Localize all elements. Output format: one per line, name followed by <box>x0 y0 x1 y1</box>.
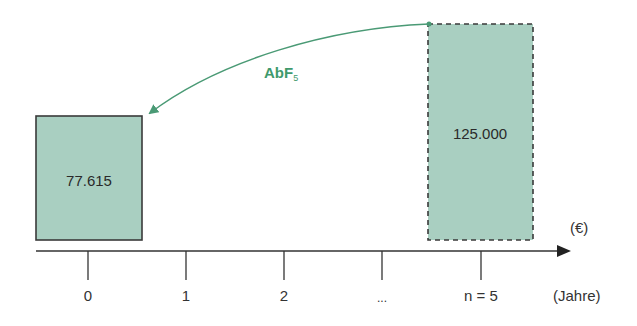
present-value-label: 77.615 <box>66 172 112 189</box>
tick-label-0: 0 <box>84 287 92 304</box>
discount-factor-main: AbF <box>264 64 293 81</box>
tick-label-ellipsis: ... <box>377 291 387 305</box>
diagram-canvas <box>0 0 637 326</box>
value-unit-label: (€) <box>570 219 588 236</box>
discount-factor-label: AbF5 <box>264 64 298 83</box>
time-unit-label: (Jahre) <box>553 287 601 304</box>
future-value-label: 125.000 <box>453 125 507 142</box>
tick-label-n5: n = 5 <box>464 287 498 304</box>
axis-arrowhead-icon <box>557 245 571 257</box>
tick-label-2: 2 <box>280 287 288 304</box>
tick-label-1: 1 <box>182 287 190 304</box>
discount-factor-subscript: 5 <box>293 73 298 83</box>
axis-ticks <box>88 251 481 280</box>
